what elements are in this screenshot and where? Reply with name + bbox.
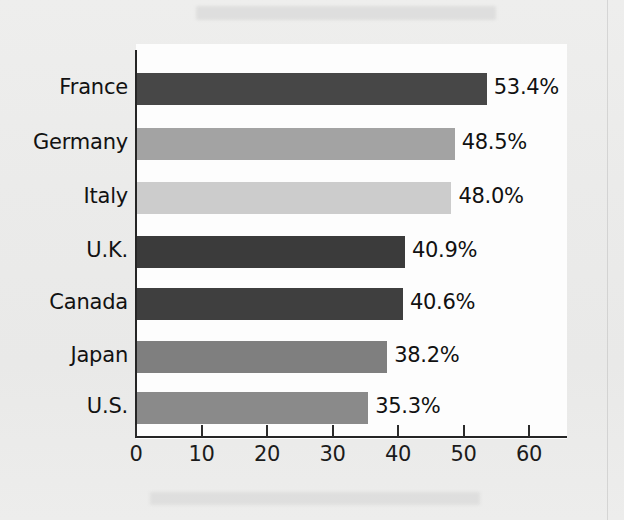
x-tick-30 bbox=[332, 425, 334, 437]
x-tick-label-50: 50 bbox=[450, 442, 476, 466]
bar-germany bbox=[137, 128, 455, 160]
value-label-germany: 48.5% bbox=[462, 130, 527, 154]
horizontal-bar-chart: 0102030405060 FranceGermanyItalyU.K.Cana… bbox=[0, 0, 624, 520]
category-label-canada: Canada bbox=[49, 290, 128, 314]
value-label-france: 53.4% bbox=[494, 75, 559, 99]
category-label-japan: Japan bbox=[70, 343, 128, 367]
x-tick-20 bbox=[266, 425, 268, 437]
x-tick-10 bbox=[201, 425, 203, 437]
category-label-germany: Germany bbox=[33, 130, 128, 154]
x-tick-label-40: 40 bbox=[385, 442, 411, 466]
x-tick-60 bbox=[528, 425, 530, 437]
category-label-italy: Italy bbox=[83, 184, 128, 208]
value-label-italy: 48.0% bbox=[458, 184, 523, 208]
value-label-u-s: 35.3% bbox=[375, 394, 440, 418]
category-label-france: France bbox=[59, 75, 128, 99]
category-label-u-s: U.S. bbox=[87, 394, 128, 418]
bar-japan bbox=[137, 341, 387, 373]
x-tick-40 bbox=[397, 425, 399, 437]
category-label-u-k: U.K. bbox=[86, 238, 128, 262]
x-tick-label-10: 10 bbox=[188, 442, 214, 466]
value-label-japan: 38.2% bbox=[394, 343, 459, 367]
bar-canada bbox=[137, 288, 403, 320]
x-tick-label-20: 20 bbox=[254, 442, 280, 466]
x-tick-50 bbox=[463, 425, 465, 437]
bar-france bbox=[137, 73, 487, 105]
x-tick-0 bbox=[135, 425, 137, 437]
bar-italy bbox=[137, 182, 451, 214]
value-label-canada: 40.6% bbox=[410, 290, 475, 314]
x-tick-label-60: 60 bbox=[516, 442, 542, 466]
bar-u-s bbox=[137, 392, 368, 424]
x-tick-label-30: 30 bbox=[319, 442, 345, 466]
bar-u-k bbox=[137, 236, 405, 268]
value-label-u-k: 40.9% bbox=[412, 238, 477, 262]
x-tick-label-0: 0 bbox=[129, 442, 142, 466]
